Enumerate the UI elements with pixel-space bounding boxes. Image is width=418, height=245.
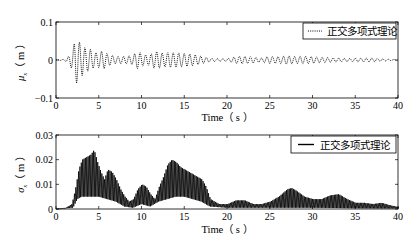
top-panel: 0510152025303540 −0.100.1 正交多项式理论 μx（ m … [15, 17, 403, 124]
x-tick-label: 0 [54, 100, 59, 111]
svg-text:μx（ m ）: μx（ m ） [15, 39, 29, 82]
x-tick-label: 25 [265, 100, 275, 111]
y-tick-label: 0.01 [36, 179, 54, 190]
x-tick-label: 40 [393, 100, 403, 111]
y-tick-label: 0 [48, 55, 53, 66]
y-tick-label: 0 [48, 204, 53, 215]
x-tick-label: 35 [350, 211, 360, 222]
y-tick-label: 0.1 [41, 17, 54, 28]
y-tick-label: 0.02 [36, 154, 54, 165]
x-tick-label: 20 [222, 100, 232, 111]
top-ylabel-unit: （ m ） [15, 39, 26, 72]
svg-text:σx（ m ）: σx（ m ） [15, 151, 29, 193]
top-y-label: μx（ m ） [15, 39, 29, 82]
top-signal-line [56, 42, 398, 83]
x-tick-label: 30 [308, 211, 318, 222]
x-tick-label: 35 [350, 100, 360, 111]
x-tick-label: 20 [222, 211, 232, 222]
x-tick-label: 15 [179, 100, 189, 111]
x-tick-label: 5 [96, 211, 101, 222]
x-tick-label: 30 [308, 100, 318, 111]
x-tick-label: 5 [96, 100, 101, 111]
x-tick-label: 40 [393, 211, 403, 222]
bottom-legend: 正交多项式理论 [291, 136, 396, 153]
x-tick-label: 10 [137, 100, 147, 111]
x-tick-label: 10 [137, 211, 147, 222]
x-tick-label: 15 [179, 211, 189, 222]
bottom-y-label: σx（ m ） [15, 151, 29, 193]
x-tick-label: 0 [54, 211, 59, 222]
y-tick-label: 0.03 [36, 130, 54, 141]
y-tick-label: −0.1 [35, 93, 53, 104]
bottom-ylabel-unit: （ m ） [15, 151, 26, 184]
top-legend: 正交多项式理论 [303, 23, 398, 39]
top-x-label: Time（ s ） [201, 112, 252, 123]
figure: 0510152025303540 −0.100.1 正交多项式理论 μx（ m … [0, 0, 418, 245]
top-legend-label: 正交多项式理论 [327, 25, 398, 37]
bottom-signal-line [56, 151, 399, 209]
bottom-x-label: Time（ s ） [201, 224, 252, 235]
bottom-panel: 0510152025303540 00.010.020.03 正交多项式理论 σ… [15, 130, 403, 236]
bottom-legend-label: 正交多项式理论 [320, 139, 391, 151]
x-tick-label: 25 [265, 211, 275, 222]
